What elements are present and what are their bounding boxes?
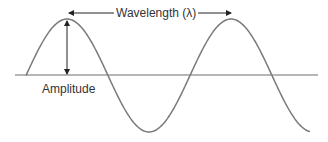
wave-diagram xyxy=(0,0,328,142)
wavelength-label: Wavelength (λ) xyxy=(114,6,198,20)
amplitude-label: Amplitude xyxy=(42,82,95,96)
